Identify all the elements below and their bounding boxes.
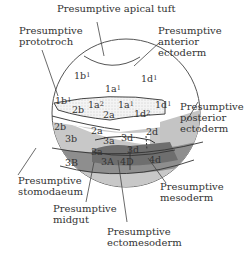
label-ectomesoderm: Presumptive ectomesoderm: [107, 226, 182, 248]
label-mesoderm-line1: Presumptive: [160, 181, 224, 192]
cell-4d: 4d: [149, 155, 161, 165]
label-stomodaeum-line1: Presumptive: [18, 175, 83, 186]
label-anterior-ectoderm-line1: Presumptive: [158, 25, 222, 36]
cell-1d2: 1d2: [134, 109, 150, 119]
label-prototroch-line1: Presumptive: [19, 25, 83, 36]
label-prototroch-line2: prototroch: [19, 36, 83, 47]
cell-1d1-top: 1d1: [141, 74, 157, 84]
label-midgut-line2: midgut: [53, 214, 117, 225]
cell-1b1-top: 1b1: [74, 71, 90, 81]
cell-1a1-band: 1a1: [118, 100, 134, 110]
cell-3d-upper: 3d: [121, 133, 133, 143]
cell-3B: 3B: [65, 158, 78, 168]
label-apical-tuft: Presumptive apical tuft: [57, 3, 176, 14]
cell-2a: 2a: [91, 126, 103, 136]
label-prototroch: Presumptive prototroch: [19, 25, 83, 47]
label-posterior-ectoderm-line2: posterior: [180, 112, 244, 123]
label-posterior-ectoderm-line3: ectoderm: [180, 123, 244, 134]
cell-1d1-right: 1d1: [155, 100, 171, 110]
cell-3a-upper: 3a: [103, 136, 115, 146]
label-anterior-ectoderm: Presumptive anterior ectoderm: [158, 25, 222, 58]
label-ectomesoderm-line1: Presumptive: [107, 226, 182, 237]
leader-stomodaeum: [18, 148, 36, 175]
leader-prototroch: [42, 50, 58, 96]
cell-1a2: 1a2: [88, 100, 104, 110]
label-mesoderm: Presumptive mesoderm: [160, 181, 224, 203]
cell-1a1-top: 1a1: [105, 84, 121, 94]
cell-3d: 3d: [127, 145, 139, 155]
cell-2a-band: 2a: [103, 110, 115, 120]
cell-3A: 3A: [101, 157, 114, 167]
cell-1b1-band: 1b1: [55, 96, 71, 106]
label-anterior-ectoderm-line3: ectoderm: [158, 47, 222, 58]
cell-2b-band: 2b: [72, 105, 84, 115]
label-anterior-ectoderm-line2: anterior: [158, 36, 222, 47]
label-stomodaeum: Presumptive stomodaeum: [18, 175, 83, 197]
cell-2d: 2d: [146, 127, 158, 137]
label-posterior-ectoderm-line1: Presumptive: [180, 101, 244, 112]
label-midgut-line1: Presumptive: [53, 203, 117, 214]
label-mesoderm-line2: mesoderm: [160, 192, 224, 203]
cell-2b: 2b: [54, 122, 66, 132]
cell-3b: 3b: [65, 134, 77, 144]
label-ectomesoderm-line2: ectomesoderm: [107, 237, 182, 248]
label-posterior-ectoderm: Presumptive posterior ectoderm: [180, 101, 244, 134]
label-midgut: Presumptive midgut: [53, 203, 117, 225]
cell-4D: 4D: [120, 157, 134, 167]
label-stomodaeum-line2: stomodaeum: [18, 186, 83, 197]
